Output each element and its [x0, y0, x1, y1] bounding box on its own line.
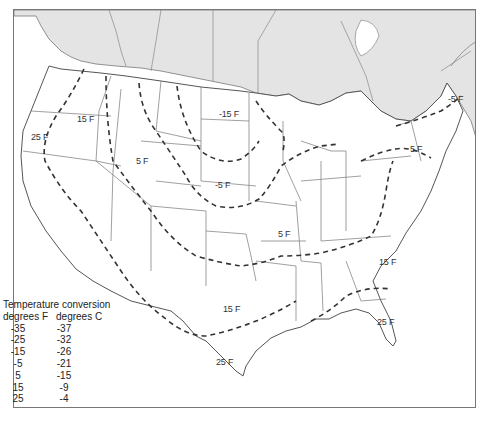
isotherm-label: -15 F	[219, 109, 239, 119]
temperature-conversion-legend: Temperature conversion degrees F degrees…	[3, 299, 110, 405]
legend-row: -15-26	[3, 346, 110, 358]
isotherm-label: 15 F	[223, 304, 240, 314]
legend-col-f: degrees F	[3, 311, 48, 323]
legend-title: Temperature conversion	[3, 299, 110, 311]
isotherm-label: 25 F	[216, 357, 233, 367]
legend-row: 25-4	[3, 393, 110, 405]
legend-row: -35-37	[3, 323, 110, 335]
isotherm-label: 5 F	[278, 229, 290, 239]
isotherm-label: 25 F	[377, 317, 394, 327]
legend-row: 5-15	[3, 370, 110, 382]
legend-col-c: degrees C	[56, 311, 102, 323]
legend-row: -5-21	[3, 358, 110, 370]
isotherm-label: 15 F	[379, 257, 396, 267]
isotherm-label: 25 F	[31, 132, 48, 142]
isotherm-label: -5 F	[448, 94, 463, 104]
isotherm-label: -5 F	[215, 180, 230, 190]
legend-row: -25-32	[3, 334, 110, 346]
isotherm-label: 5 F	[410, 144, 422, 154]
isotherm-label: 15 F	[77, 114, 94, 124]
isotherm-label: 5 F	[136, 156, 148, 166]
legend-row: 15-9	[3, 382, 110, 394]
